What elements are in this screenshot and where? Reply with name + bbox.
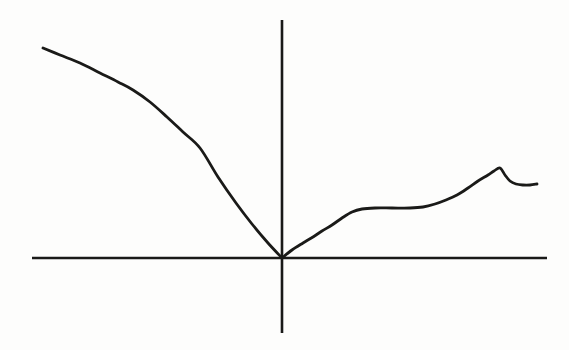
function-graph-figure [0, 0, 569, 350]
figure-background [0, 0, 569, 350]
figure-container [0, 0, 569, 350]
